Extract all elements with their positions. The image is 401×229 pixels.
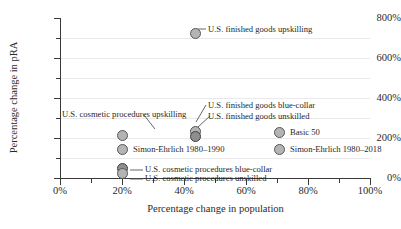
x-tick-label-0: 0%: [30, 185, 90, 196]
y-tick-500: [56, 78, 60, 79]
gridline-400: [60, 98, 370, 99]
y-tick-800: [54, 18, 60, 19]
data-point-cosmetic-unskilled[interactable]: [117, 168, 128, 179]
y-axis-line: [60, 18, 61, 179]
y-tick-label-0: 0%: [347, 173, 401, 183]
point-label-finished-goods-upskilling: U.S. finished goods upskilling: [208, 25, 312, 35]
y-tick-600: [54, 58, 60, 59]
x-tick-70: [277, 179, 278, 183]
data-point-finished-goods-unskilled[interactable]: [190, 131, 201, 142]
data-point-simon-ehrlich-1990[interactable]: [117, 144, 128, 155]
data-point-finished-goods-upskilling[interactable]: [190, 28, 201, 39]
x-tick-label-80: 80%: [278, 185, 338, 196]
data-point-basic-50[interactable]: [274, 127, 285, 138]
gridline-100: [60, 158, 370, 159]
point-label-finished-goods-unskilled: U.S. finished goods unskilled: [208, 112, 309, 122]
y-tick-label-400: 400%: [347, 93, 401, 103]
y-tick-label-600: 600%: [347, 53, 401, 63]
y-tick-200: [54, 138, 60, 139]
y-tick-700: [56, 38, 60, 39]
y-tick-label-800: 800%: [347, 13, 401, 23]
gridline-500: [60, 78, 370, 79]
y-tick-300: [56, 118, 60, 119]
x-tick-label-100: 100%: [340, 185, 400, 196]
point-label-cosmetic-unskilled: U.S. cosmetic procedures unskilled: [145, 174, 266, 184]
x-tick-label-20: 20%: [92, 185, 152, 196]
point-label-basic-50: Basic 50: [290, 128, 320, 138]
y-tick-100: [56, 158, 60, 159]
x-tick-10: [91, 179, 92, 183]
x-tick-label-40: 40%: [154, 185, 214, 196]
data-point-simon-ehrlich-2018[interactable]: [274, 144, 285, 155]
x-tick-90: [339, 179, 340, 183]
point-label-simon-ehrlich-2018: Simon-Ehrlich 1980–2018: [290, 145, 381, 155]
y-tick-400: [54, 98, 60, 99]
x-axis-title: Percentage change in population: [60, 203, 371, 214]
data-point-cosmetic-upskilling[interactable]: [117, 130, 128, 141]
gridline-200: [60, 138, 370, 139]
x-tick-label-60: 60%: [216, 185, 276, 196]
y-tick-label-200: 200%: [347, 133, 401, 143]
gridline-700: [60, 38, 370, 39]
scatter-chart: 800% 600% 400% 200% 0% 0% 20% 40% 60% 80…: [0, 0, 401, 229]
point-label-finished-goods-blue-collar: U.S. finished goods blue-collar: [208, 101, 315, 111]
y-axis-title: Percentage change in pRA: [8, 23, 19, 173]
gridline-600: [60, 58, 370, 59]
point-label-simon-ehrlich-1990: Simon-Ehrlich 1980–1990: [133, 145, 224, 155]
point-label-cosmetic-upskilling: U.S. cosmetic procedures upskilling: [62, 110, 186, 120]
